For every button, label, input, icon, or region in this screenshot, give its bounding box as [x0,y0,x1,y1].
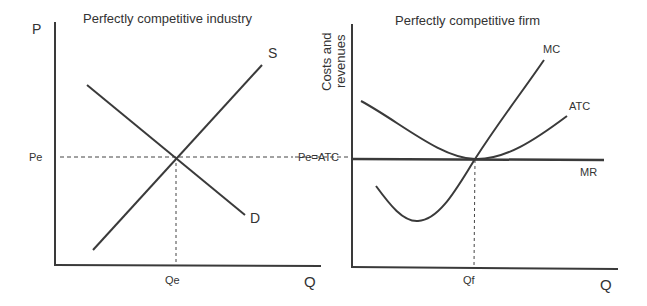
atc-curve [361,101,567,159]
price-axis-label: P [32,21,41,37]
atc-label: ATC [569,100,590,112]
firm-x-axis [351,267,618,269]
industry-q-axis-label: Q [304,273,316,290]
mc-label: MC [543,43,560,55]
industry-panel: Perfectly competitive industry P Pe S D … [29,11,321,290]
supply-label: S [268,45,277,61]
mc-curve [376,60,544,221]
pe-atc-label: Pe=ATC [298,151,339,163]
demand-label: D [250,210,260,226]
competition-diagram: Perfectly competitive industry P Pe S D … [0,0,647,306]
pe-label: Pe [29,151,42,163]
firm-title: Perfectly competitive firm [395,13,540,28]
firm-panel: Perfectly competitive firm Costs and rev… [295,13,618,293]
costs-axis-label-line1: Costs and [319,32,334,91]
demand-curve [87,85,245,215]
qf-label: Qf [463,274,476,286]
industry-x-axis [54,265,321,266]
firm-q-axis-label: Q [600,276,612,293]
costs-axis-label-line2: revenues [333,34,348,88]
industry-title: Perfectly competitive industry [83,11,253,26]
qf-dashed-line [474,160,475,267]
qe-label: Qe [165,274,180,286]
mr-label: MR [580,166,597,178]
